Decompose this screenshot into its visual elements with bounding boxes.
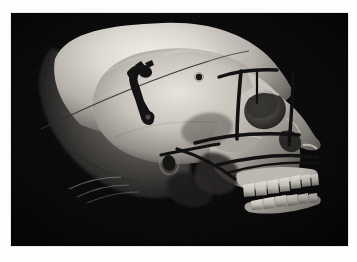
- photo-vignette: [11, 13, 348, 246]
- document-page: [0, 0, 357, 262]
- skull-lateral-photograph: [11, 13, 348, 246]
- figure-caption: [13, 253, 345, 262]
- figure-plate: [11, 13, 348, 246]
